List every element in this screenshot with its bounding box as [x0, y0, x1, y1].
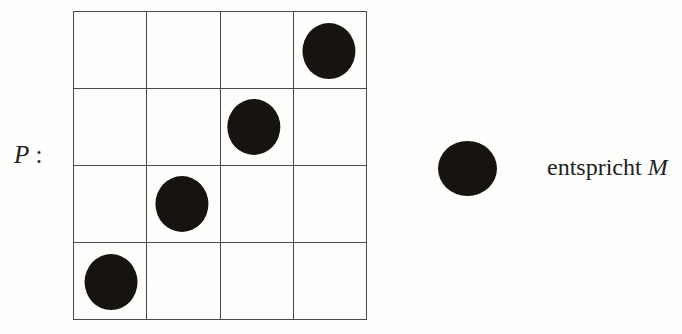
- legend-caption-symbol: M: [648, 154, 668, 180]
- matrix-label: P :: [14, 142, 42, 167]
- grid-cell-r3c4[interactable]: [294, 166, 367, 243]
- matrix-dot-r4c1: [85, 254, 138, 310]
- grid-cell-r3c3[interactable]: [221, 166, 294, 243]
- matrix-dot-r3c2: [156, 176, 209, 232]
- grid-cell-r2c4[interactable]: [294, 89, 367, 166]
- matrix-label-symbol: P: [14, 141, 29, 168]
- grid-cell-r1c1[interactable]: [74, 12, 147, 89]
- grid-cell-r2c3[interactable]: [221, 89, 294, 166]
- permutation-grid: [73, 11, 367, 320]
- grid-cell-r1c3[interactable]: [221, 12, 294, 89]
- matrix-dot-r2c3: [227, 99, 280, 155]
- grid-cell-r4c4[interactable]: [294, 243, 367, 320]
- legend-dot-icon: [438, 141, 497, 196]
- grid-cell-r3c1[interactable]: [74, 166, 147, 243]
- grid-cell-r1c4[interactable]: [294, 12, 367, 89]
- grid-cell-r2c1[interactable]: [74, 89, 147, 166]
- legend-caption: entspricht M: [547, 155, 668, 179]
- grid-cell-r1c2[interactable]: [147, 12, 220, 89]
- legend-marker: [438, 141, 497, 196]
- permutation-figure: P : entspricht M: [0, 0, 682, 334]
- matrix-dot-r1c4: [302, 23, 355, 79]
- grid-cell-r4c3[interactable]: [221, 243, 294, 320]
- matrix-label-separator: :: [29, 141, 42, 168]
- grid-cell-r3c2[interactable]: [147, 166, 220, 243]
- grid-cell-r4c1[interactable]: [74, 243, 147, 320]
- legend-caption-text: entspricht: [547, 154, 642, 180]
- grid-cell-r2c2[interactable]: [147, 89, 220, 166]
- grid-cell-r4c2[interactable]: [147, 243, 220, 320]
